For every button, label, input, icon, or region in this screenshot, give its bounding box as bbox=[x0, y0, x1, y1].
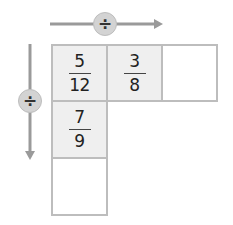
numerator: 7 bbox=[74, 109, 84, 126]
divide-operator-horizontal-icon: ÷ bbox=[93, 12, 117, 36]
fraction-bar bbox=[124, 73, 146, 74]
denominator: 8 bbox=[129, 77, 139, 94]
cell-r1-c3-answer[interactable] bbox=[161, 44, 218, 102]
fraction: 5 12 bbox=[69, 53, 91, 94]
numerator: 5 bbox=[74, 53, 84, 70]
cell-r3-c1-answer[interactable] bbox=[51, 157, 108, 216]
fraction: 3 8 bbox=[124, 53, 146, 94]
divide-operator-vertical-icon: ÷ bbox=[18, 89, 42, 113]
cell-r1-c1: 5 12 bbox=[51, 44, 108, 102]
fraction-bar bbox=[69, 73, 91, 74]
fraction-bar bbox=[69, 129, 91, 130]
arrows-layer bbox=[0, 0, 233, 225]
denominator: 12 bbox=[69, 77, 90, 94]
cell-r2-c1: 7 9 bbox=[51, 100, 108, 159]
cell-r1-c2: 3 8 bbox=[106, 44, 163, 102]
fraction: 7 9 bbox=[69, 109, 91, 150]
denominator: 9 bbox=[74, 133, 84, 150]
numerator: 3 bbox=[129, 53, 139, 70]
